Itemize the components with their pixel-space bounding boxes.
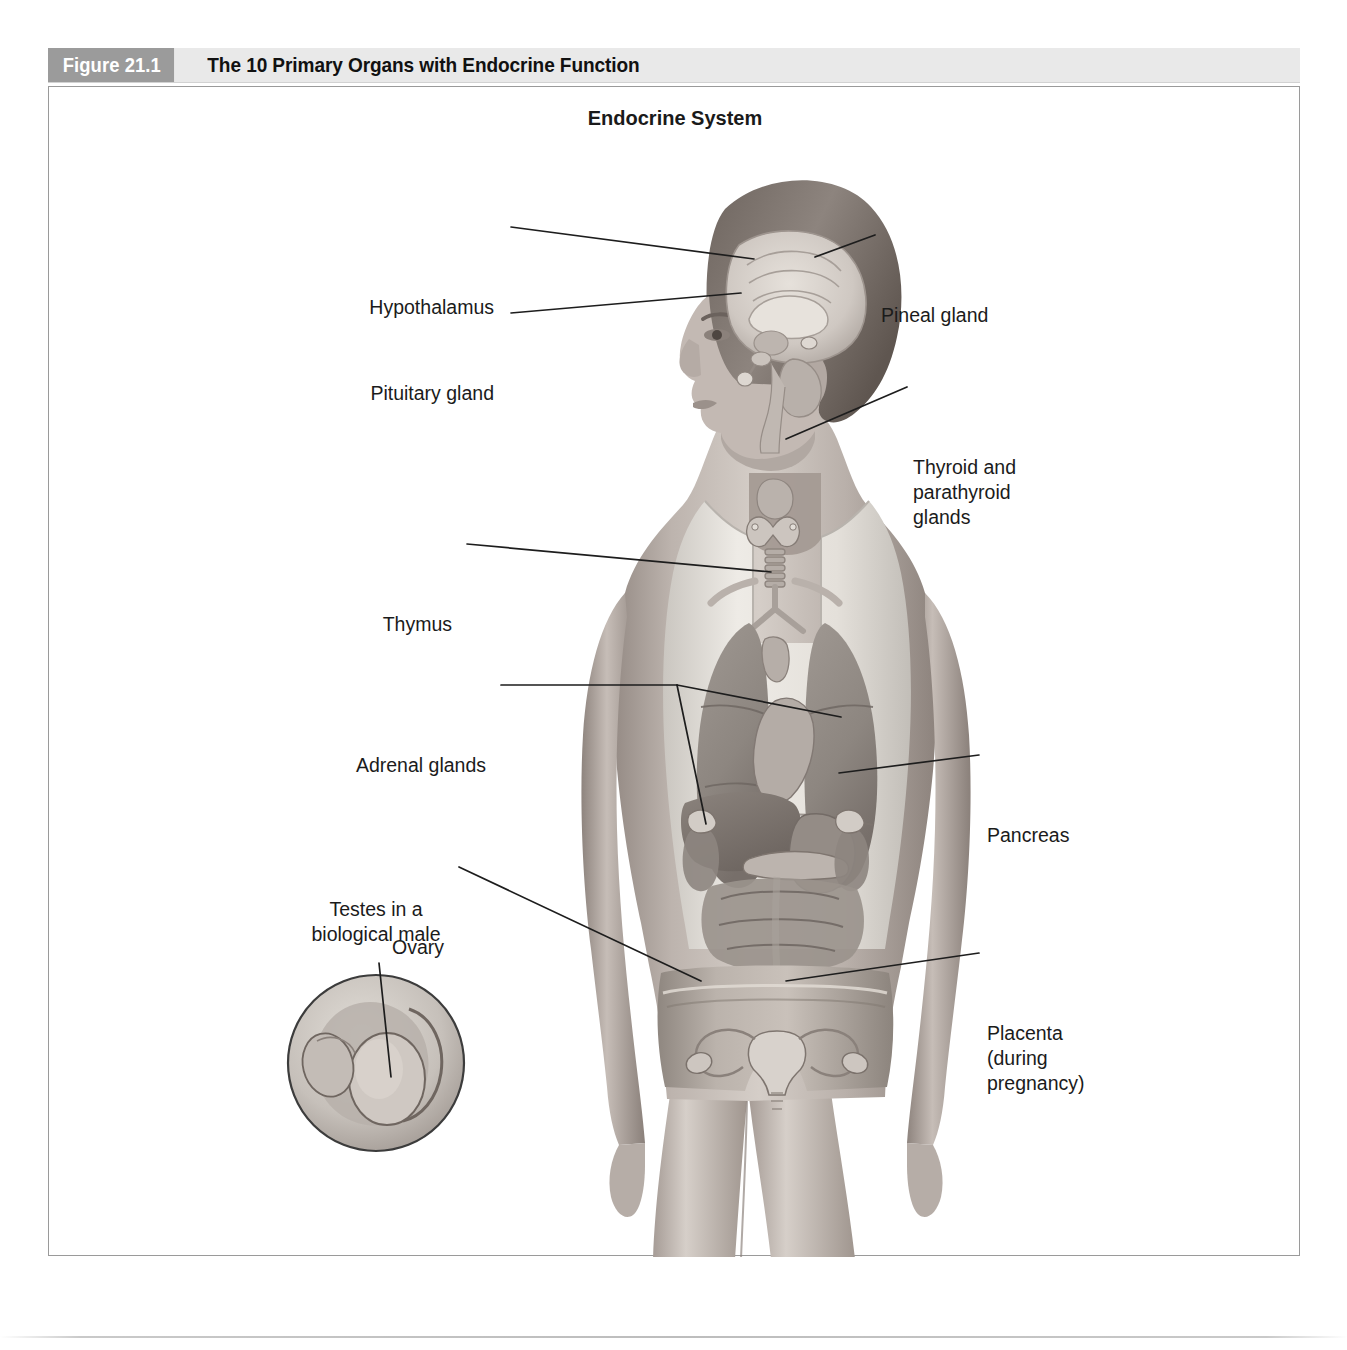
label-hypothalamus: Hypothalamus [369,295,494,320]
figure-title: The 10 Primary Organs with Endocrine Fun… [185,48,640,82]
testes-inset-illustration [288,975,464,1151]
figure-number-badge: Figure 21.1 [48,48,174,82]
figure-container: Figure 21.1 The 10 Primary Organs with E… [0,0,1347,1350]
head-with-brain [679,180,901,459]
adrenal-gland-left [688,810,716,833]
label-thymus: Thymus [383,612,452,637]
page-bottom-rule [0,1336,1347,1338]
label-pineal-gland: Pineal gland [881,303,988,328]
pituitary-organ [737,372,753,386]
label-pancreas: Pancreas [987,823,1069,848]
pancreas-organ [743,852,848,880]
label-thyroid-parathyroid-glands: Thyroid and parathyroid glands [913,455,1016,530]
label-pituitary-gland: Pituitary gland [370,381,494,406]
figure-content-frame: Endocrine System [48,86,1300,1256]
adrenal-gland-right [836,810,864,833]
label-adrenal-glands: Adrenal glands [356,753,486,778]
figure-header: Figure 21.1 The 10 Primary Organs with E… [48,48,1300,82]
hypothalamus-organ [751,352,771,366]
label-testes: Testes in a biological male [256,897,496,947]
pineal-organ [801,337,817,349]
endocrine-system-illustration [49,87,1301,1257]
body-figure [581,180,970,1257]
label-placenta: Placenta (during pregnancy) [987,1021,1085,1096]
